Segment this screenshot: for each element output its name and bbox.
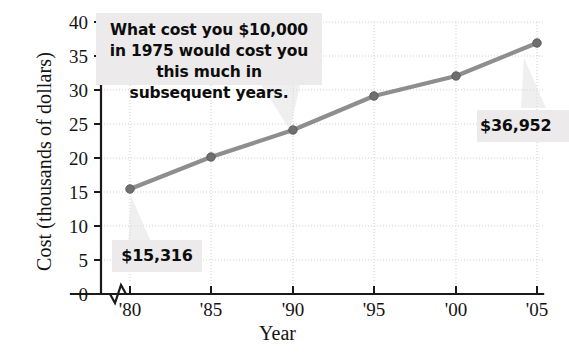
x-tick-label-05: '05 [509,300,565,319]
data-point [289,126,297,134]
y-tick-label-35: 35 [52,47,88,66]
main-callout-annotation: What cost you $10,000 in 1975 would cost… [96,13,322,85]
y-tick-label-15: 15 [52,183,88,202]
y-tick-label-5: 5 [52,251,88,270]
data-point [533,39,541,47]
x-tick-label-85: '85 [183,300,239,319]
x-tick-label-80: '80 [102,300,158,319]
x-tick-label-95: '95 [346,300,402,319]
y-tick-label-0: 0 [52,285,88,304]
last-value-label: $36,952 [477,110,569,142]
x-tick-label-00: '00 [428,300,484,319]
first-value-label: $15,316 [112,240,202,272]
x-tick-label-90: '90 [265,300,321,319]
y-tick-label-10: 10 [52,217,88,236]
y-tick-label-30: 30 [52,81,88,100]
data-point [452,72,460,80]
y-tick-label-40: 40 [52,13,88,32]
data-point [207,153,215,161]
x-axis-title: Year [0,322,555,345]
y-axis-title: Cost (thousands of dollars) [33,22,56,302]
y-tick-label-20: 20 [52,149,88,168]
data-point [370,92,378,100]
data-point [126,185,134,193]
y-tick-label-25: 25 [52,115,88,134]
